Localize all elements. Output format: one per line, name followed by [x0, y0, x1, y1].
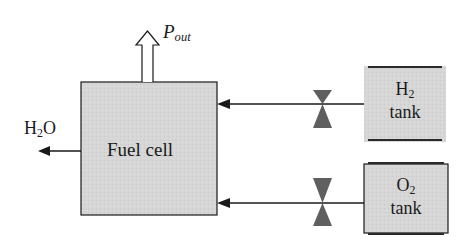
h2-tank-label: H2 tank: [364, 80, 446, 121]
power-output-label: Pout: [163, 22, 191, 41]
power-symbol: P: [163, 21, 175, 42]
o2-tank-text: tank: [364, 199, 448, 217]
fuel-cell-label: Fuel cell: [107, 140, 173, 159]
power-output-arrow-icon: [136, 31, 159, 82]
o2-valve-icon[interactable]: [313, 178, 332, 226]
water-label: H2O: [24, 119, 56, 137]
h2-subscript: 2: [409, 87, 415, 101]
h2-supply-line: [217, 99, 364, 109]
h2-base: H: [396, 79, 409, 99]
h2-valve-icon[interactable]: [313, 90, 332, 128]
h2-formula: H2: [364, 80, 446, 98]
o2-tank-label: O2 tank: [364, 176, 448, 217]
o2-formula: O2: [364, 176, 448, 194]
h2-tank-text: tank: [364, 103, 446, 121]
fuel-cell-label-text: Fuel cell: [107, 139, 173, 160]
water-base: H: [24, 118, 37, 138]
power-subscript: out: [175, 30, 191, 44]
o2-subscript: 2: [410, 183, 416, 197]
o2-base: O: [397, 175, 410, 195]
water-suffix: O: [43, 118, 56, 138]
o2-supply-line: [217, 198, 364, 208]
water-exhaust-arrow-icon: [38, 146, 81, 156]
